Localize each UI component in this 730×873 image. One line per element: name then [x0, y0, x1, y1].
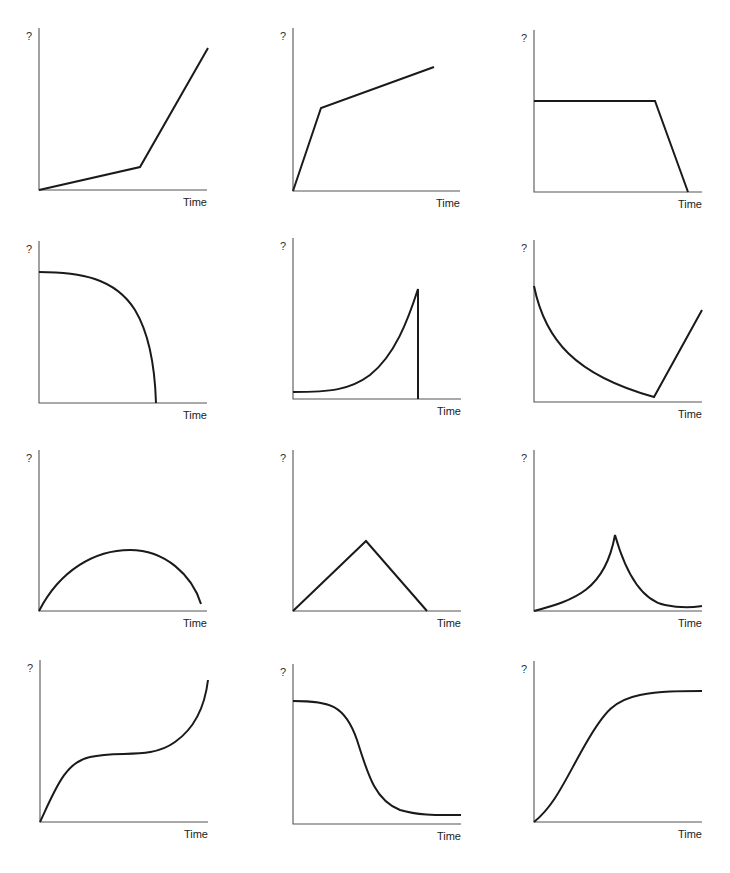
graph-11: ?Time	[280, 664, 461, 842]
y-axis-label: ?	[521, 452, 527, 464]
graph-curve	[534, 535, 702, 611]
axes	[39, 241, 207, 403]
graph-curve	[39, 48, 208, 190]
graphs-grid: ?Time?Time?Time?Time?Time?Time?Time?Time…	[0, 0, 730, 873]
y-axis-label: ?	[280, 240, 286, 252]
axes	[534, 240, 702, 402]
x-axis-label: Time	[437, 405, 461, 417]
graph-curve	[534, 101, 688, 192]
x-axis-label: Time	[678, 828, 702, 840]
graph-2: ?Time	[280, 28, 460, 209]
graph-curve	[293, 289, 418, 399]
x-axis-label: Time	[184, 828, 208, 840]
graph-9: ?Time	[521, 450, 702, 629]
graph-7: ?Time	[26, 450, 207, 629]
graph-8: ?Time	[280, 450, 461, 629]
graph-12: ?Time	[521, 661, 702, 840]
graph-curve	[534, 691, 702, 822]
graph-5: ?Time	[280, 238, 461, 417]
x-axis-label: Time	[183, 409, 207, 421]
graph-curve	[293, 701, 461, 815]
y-axis-label: ?	[26, 452, 32, 464]
axes	[39, 450, 207, 611]
axes	[40, 660, 208, 822]
graph-4: ?Time	[26, 241, 207, 421]
x-axis-label: Time	[183, 196, 207, 208]
x-axis-label: Time	[436, 197, 460, 209]
graph-6: ?Time	[521, 240, 702, 420]
y-axis-label: ?	[280, 666, 286, 678]
graph-1: ?Time	[26, 28, 208, 208]
graph-10: ?Time	[27, 660, 208, 840]
y-axis-label: ?	[521, 242, 527, 254]
axes	[293, 664, 461, 824]
axes	[293, 28, 460, 191]
x-axis-label: Time	[437, 617, 461, 629]
y-axis-label: ?	[521, 32, 527, 44]
y-axis-label: ?	[26, 243, 32, 255]
x-axis-label: Time	[437, 830, 461, 842]
graph-curve	[293, 67, 434, 191]
y-axis-label: ?	[27, 662, 33, 674]
axes	[534, 661, 702, 822]
y-axis-label: ?	[280, 30, 286, 42]
graph-curve	[534, 286, 702, 397]
x-axis-label: Time	[678, 617, 702, 629]
graph-curve	[39, 550, 201, 611]
graph-curve	[39, 272, 156, 403]
y-axis-label: ?	[280, 452, 286, 464]
y-axis-label: ?	[521, 663, 527, 675]
graph-curve	[40, 680, 208, 822]
axes	[39, 28, 207, 190]
axes	[534, 450, 702, 611]
x-axis-label: Time	[678, 408, 702, 420]
graph-curve	[293, 541, 427, 611]
axes	[293, 238, 461, 399]
axes	[534, 30, 702, 192]
graph-3: ?Time	[521, 30, 702, 210]
x-axis-label: Time	[183, 617, 207, 629]
x-axis-label: Time	[678, 198, 702, 210]
y-axis-label: ?	[26, 30, 32, 42]
